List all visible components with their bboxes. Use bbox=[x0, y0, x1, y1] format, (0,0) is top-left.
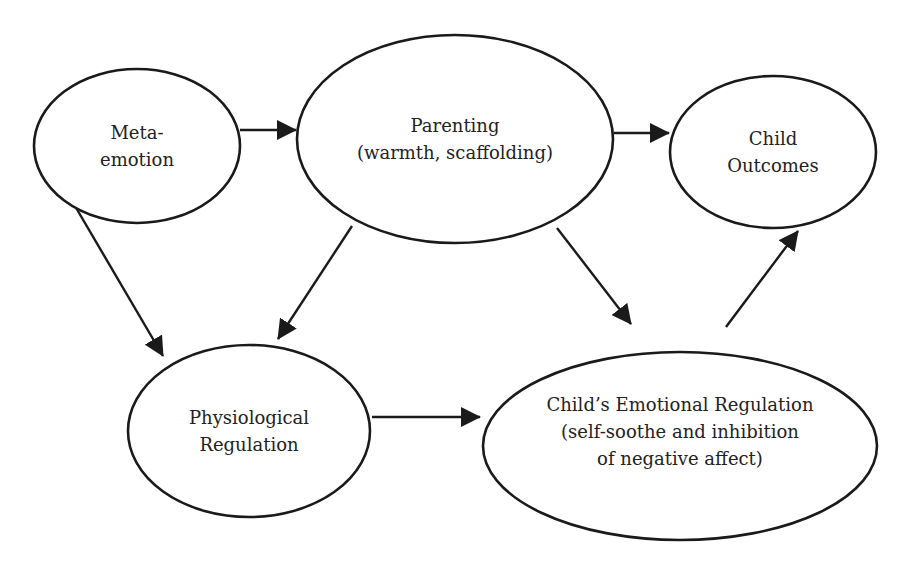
diagram-canvas: Meta-emotionParenting(warmth, scaffoldin… bbox=[0, 0, 905, 563]
ellipse-phys bbox=[128, 345, 370, 517]
arrow-parent-to-phys bbox=[278, 226, 352, 339]
node-label-er-line-2: of negative affect) bbox=[597, 448, 763, 469]
node-label-parent-line-1: (warmth, scaffolding) bbox=[357, 142, 553, 163]
arrow-parent-to-er bbox=[557, 228, 631, 324]
node-out: ChildOutcomes bbox=[670, 76, 876, 228]
node-label-meta-line-1: emotion bbox=[100, 149, 174, 170]
arrow-meta-to-phys bbox=[75, 206, 163, 356]
node-label-phys-line-1: Regulation bbox=[199, 434, 299, 455]
node-parent: Parenting(warmth, scaffolding) bbox=[297, 35, 613, 243]
node-phys: PhysiologicalRegulation bbox=[128, 345, 370, 517]
node-meta: Meta-emotion bbox=[34, 69, 240, 223]
ellipse-meta bbox=[34, 69, 240, 223]
node-label-out-line-1: Outcomes bbox=[727, 155, 818, 176]
node-label-out-line-0: Child bbox=[749, 128, 797, 149]
node-label-er-line-0: Child’s Emotional Regulation bbox=[547, 394, 814, 415]
node-label-phys-line-0: Physiological bbox=[189, 407, 309, 428]
ellipse-parent bbox=[297, 35, 613, 243]
node-label-parent-line-0: Parenting bbox=[411, 115, 500, 136]
node-label-meta-line-0: Meta- bbox=[110, 122, 163, 143]
ellipse-er bbox=[483, 352, 877, 540]
arrow-er-to-out bbox=[726, 231, 798, 327]
node-label-er-line-1: (self-soothe and inhibition bbox=[561, 421, 799, 442]
nodes-layer: Meta-emotionParenting(warmth, scaffoldin… bbox=[34, 35, 877, 540]
node-er: Child’s Emotional Regulation(self-soothe… bbox=[483, 352, 877, 540]
ellipse-out bbox=[670, 76, 876, 228]
